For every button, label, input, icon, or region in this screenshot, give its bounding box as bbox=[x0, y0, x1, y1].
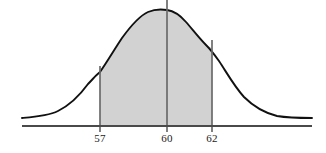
x-tick-label-60: 60 bbox=[152, 133, 182, 144]
x-tick-label-57: 57 bbox=[85, 133, 115, 144]
x-tick-label-62: 62 bbox=[197, 133, 227, 144]
normal-curve-plot bbox=[0, 0, 326, 153]
shaded-region-57-to-62 bbox=[100, 9, 212, 126]
normal-curve-figure: 57 60 62 bbox=[0, 0, 326, 153]
